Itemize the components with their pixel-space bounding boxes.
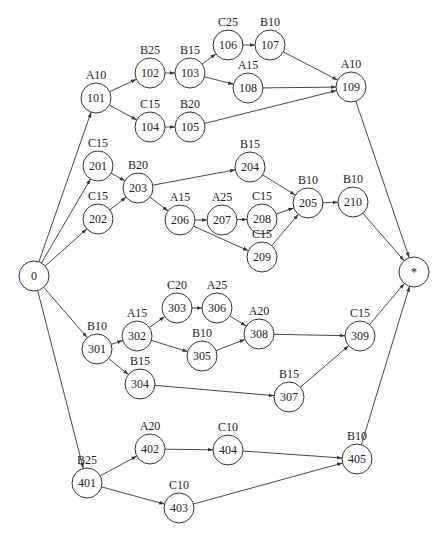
edge-305-to-308 [216, 339, 245, 350]
node-activity-label: C15 [88, 136, 108, 150]
edge-0-to-301 [44, 287, 87, 337]
node-activity-label: C15 [88, 189, 108, 203]
node-activity-label: C10 [169, 478, 189, 492]
node-id: 206 [171, 213, 189, 227]
activity-network-diagram: 0101A10102B25103B15104C15105B20106C25107… [0, 0, 436, 537]
node-304: 304B15 [125, 354, 155, 399]
edge-108-to-109 [263, 87, 336, 88]
node-activity-label: A15 [170, 190, 191, 204]
node-202: 202C15 [83, 189, 113, 234]
node-108: 108A15 [233, 58, 263, 103]
node-activity-label: A10 [86, 68, 107, 82]
node-306: 306A25 [202, 278, 232, 323]
node-activity-label: B10 [298, 173, 318, 187]
node-id: 304 [131, 377, 149, 391]
node-activity-label: C15 [140, 97, 160, 111]
node-activity-label: A10 [341, 57, 362, 71]
edge-309-to-end [370, 284, 405, 325]
edge-109-to-end [356, 101, 409, 258]
node-id: 210 [344, 195, 362, 209]
node-activity-label: A15 [127, 306, 148, 320]
node-405: 405B10 [342, 429, 372, 474]
node-id: 101 [87, 91, 105, 105]
node-106: 106C25 [213, 15, 243, 60]
node-id: 402 [141, 442, 159, 456]
node-activity-label: A20 [249, 304, 270, 318]
node-207: 207A25 [207, 190, 237, 235]
node-activity-label: C15 [252, 227, 272, 241]
edge-208-to-205 [276, 208, 294, 214]
node-activity-label: B10 [192, 326, 212, 340]
edge-302-to-303 [149, 317, 164, 328]
node-activity-label: B10 [87, 319, 107, 333]
node-id: 209 [253, 250, 271, 264]
node-id: 202 [89, 212, 107, 226]
node-102: 102B25 [135, 43, 165, 88]
node-id: 305 [193, 349, 211, 363]
node-activity-label: A25 [207, 278, 228, 292]
node-activity-label: B25 [77, 453, 97, 467]
node-402: 402A20 [135, 419, 165, 464]
node-307: 307B15 [274, 367, 304, 412]
node-id: 106 [219, 38, 237, 52]
node-activity-label: B15 [240, 137, 260, 151]
node-0: 0 [19, 261, 49, 291]
edge-202-to-203 [110, 197, 126, 210]
node-id: 207 [213, 213, 231, 227]
nodes-layer: 0101A10102B25103B15104C15105B20106C25107… [19, 15, 429, 523]
node-id: 204 [241, 160, 259, 174]
node-id: 308 [250, 327, 268, 341]
node-id: 208 [253, 212, 271, 226]
node-301: 301B10 [82, 319, 112, 364]
node-activity-label: B10 [343, 172, 363, 186]
node-activity-label: A25 [212, 190, 233, 204]
edge-404-to-405 [243, 451, 342, 458]
edge-308-to-309 [274, 334, 345, 335]
node-107: 107B10 [255, 15, 285, 60]
node-id: * [411, 265, 417, 279]
node-309: 309C15 [345, 306, 375, 351]
node-id: 102 [141, 66, 159, 80]
node-activity-label: B10 [347, 429, 367, 443]
node-104: 104C15 [135, 97, 165, 142]
node-id: 205 [299, 196, 317, 210]
node-activity-label: C20 [167, 278, 187, 292]
node-204: 204B15 [235, 137, 265, 182]
node-id: 103 [181, 66, 199, 80]
node-activity-label: B15 [130, 354, 150, 368]
edge-203-to-206 [150, 197, 168, 211]
node-id: 104 [141, 120, 159, 134]
node-id: 307 [280, 390, 298, 404]
edge-306-to-308 [230, 316, 246, 326]
node-id: 109 [342, 80, 360, 94]
edge-203-to-204 [153, 170, 236, 185]
node-105: 105B20 [175, 97, 205, 142]
node-203: 203B20 [123, 158, 153, 203]
node-103: 103B15 [175, 43, 205, 88]
node-activity-label: B20 [128, 158, 148, 172]
edge-103-to-108 [205, 77, 234, 84]
node-activity-label: B10 [260, 15, 280, 29]
node-201: 201C15 [83, 136, 113, 181]
node-401: 401B25 [72, 453, 102, 498]
edge-0-to-202 [45, 229, 87, 266]
node-205: 205B10 [293, 173, 323, 218]
edge-107-to-109 [283, 52, 337, 80]
node-id: 107 [261, 38, 279, 52]
node-id: 303 [168, 301, 186, 315]
node-activity-label: C15 [350, 306, 370, 320]
node-id: 105 [181, 120, 199, 134]
node-302: 302A15 [122, 306, 152, 351]
node-activity-label: A15 [238, 58, 259, 72]
edge-302-to-305 [151, 340, 187, 351]
node-303: 303C20 [162, 278, 192, 323]
node-end: * [399, 257, 429, 287]
node-id: 301 [88, 342, 106, 356]
edge-0-to-401 [38, 291, 84, 469]
node-308: 308A20 [244, 304, 274, 349]
node-id: 302 [128, 329, 146, 343]
node-id: 404 [219, 443, 237, 457]
node-305: 305B10 [187, 326, 217, 371]
edge-301-to-302 [111, 341, 122, 345]
node-activity-label: B15 [180, 43, 200, 57]
